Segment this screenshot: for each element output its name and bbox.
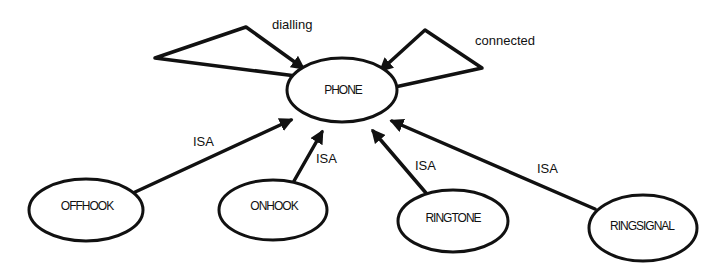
edge-label-dialling: dialling xyxy=(272,17,312,32)
node-onhook: ONHOOK xyxy=(219,180,327,240)
edge-label-onhook-isa: ISA xyxy=(316,151,337,166)
node-ringsignal-label: RINGSIGNAL xyxy=(610,219,675,233)
connected-loop-line xyxy=(381,30,482,87)
node-phone: PHONE xyxy=(287,58,397,122)
node-ringtone: RINGTONE xyxy=(398,190,508,252)
node-offhook-label: OFFHOOK xyxy=(61,199,114,213)
edge-label-offhook-isa: ISA xyxy=(193,134,214,149)
edge-label-ringsignal-isa: ISA xyxy=(537,161,558,176)
edge-ringtone-isa: ISA xyxy=(373,131,436,193)
edge-label-ringtone-isa: ISA xyxy=(415,158,436,173)
dialling-loop-line xyxy=(155,27,303,76)
node-phone-label: PHONE xyxy=(324,83,363,97)
node-ringsignal: RINGSIGNAL xyxy=(589,195,697,261)
node-onhook-label: ONHOOK xyxy=(250,199,298,213)
edge-connected: connected xyxy=(381,30,535,87)
node-ringtone-label: RINGTONE xyxy=(425,211,481,225)
semantic-network-diagram: dialling connected ISA ISA ISA ISA PHONE… xyxy=(0,0,726,278)
edge-label-connected: connected xyxy=(475,33,535,48)
edge-onhook-isa: ISA xyxy=(294,132,337,181)
node-offhook: OFFHOOK xyxy=(29,179,143,241)
edge-dialling: dialling xyxy=(155,17,312,76)
